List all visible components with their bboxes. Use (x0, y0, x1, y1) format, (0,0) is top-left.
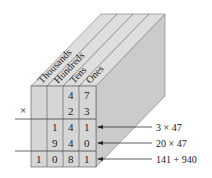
annotation-20x47: 20 × 47 (156, 138, 187, 149)
cell: 1 (52, 121, 58, 133)
cell: 1 (36, 153, 42, 165)
cell: 0 (52, 153, 58, 165)
cell: 4 (68, 137, 74, 149)
cell: 4 (68, 89, 74, 101)
annotation-sum: 141 + 940 (156, 154, 197, 165)
cell: 1 (84, 153, 90, 165)
cell: 1 (84, 121, 90, 133)
multiply-operator: × (20, 104, 26, 116)
cell: 9 (52, 137, 58, 149)
cell: 3 (84, 105, 90, 117)
cell: 7 (84, 89, 90, 101)
annotation-3x47: 3 × 47 (156, 122, 182, 133)
cell: 4 (68, 121, 74, 133)
cell: 8 (68, 153, 74, 165)
cell: 0 (84, 137, 90, 149)
cell: 2 (68, 105, 74, 117)
place-value-box-diagram: Thousands Hundreds Tens Ones × 4 7 2 3 1… (0, 0, 212, 178)
